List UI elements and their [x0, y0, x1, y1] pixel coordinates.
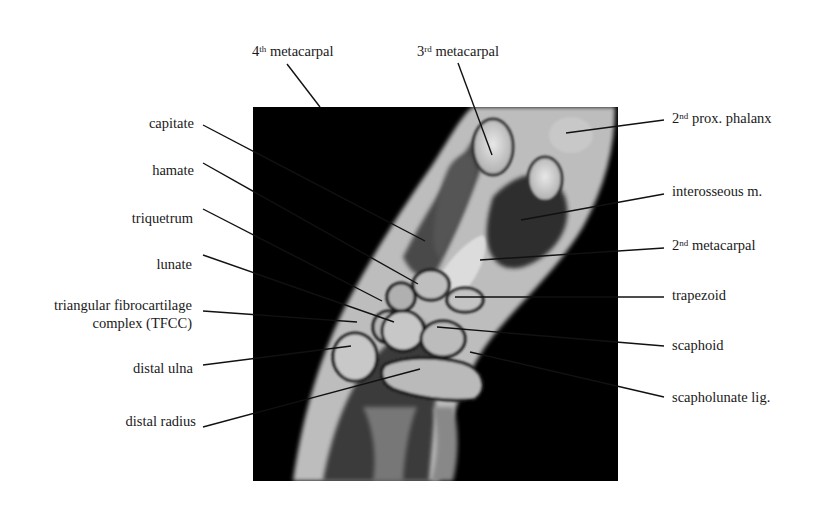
leader-2nd-metacarpal — [480, 248, 664, 260]
label-distal-radius: distal radius — [126, 413, 196, 429]
label-hamate: hamate — [152, 162, 194, 178]
label-lunate: lunate — [157, 256, 192, 272]
leader-tfcc — [203, 311, 357, 322]
label-tfcc-line1: triangular fibrocartilage — [54, 296, 192, 314]
leader-scapholunate-lig — [470, 352, 664, 397]
leader-distal-radius — [203, 369, 420, 427]
leader-4th-metacarpal — [287, 64, 320, 107]
label-trapezoid: trapezoid — [672, 287, 726, 303]
leader-triquetrum — [203, 209, 382, 301]
leader-interosseous-m — [521, 194, 664, 220]
label-2nd-prox-phalanx: 2nd prox. phalanx — [672, 110, 772, 126]
label-distal-ulna: distal ulna — [133, 360, 193, 376]
leader-3rd-metacarpal — [458, 63, 492, 155]
label-tfcc-line2: complex (TFCC) — [54, 314, 192, 332]
leader-capitate — [203, 125, 425, 241]
leader-lunate — [203, 255, 394, 322]
leader-scaphoid — [437, 327, 664, 346]
leader-lines — [0, 0, 817, 513]
label-tfcc: triangular fibrocartilage complex (TFCC) — [54, 296, 192, 332]
leader-distal-ulna — [203, 346, 351, 365]
leader-2nd-prox-phalanx — [566, 120, 664, 133]
label-capitate: capitate — [149, 115, 194, 131]
label-4th-metacarpal: 4th metacarpal — [252, 43, 333, 59]
label-2nd-metacarpal: 2nd metacarpal — [672, 237, 755, 253]
label-3rd-metacarpal: 3rd metacarpal — [417, 43, 499, 59]
label-scaphoid: scaphoid — [672, 337, 724, 353]
wrist-mri-figure: 4th metacarpal 3rd metacarpal capitate h… — [0, 0, 817, 513]
label-triquetrum: triquetrum — [132, 210, 193, 226]
label-scapholunate-lig: scapholunate lig. — [672, 389, 770, 405]
label-interosseous-m: interosseous m. — [672, 183, 762, 199]
